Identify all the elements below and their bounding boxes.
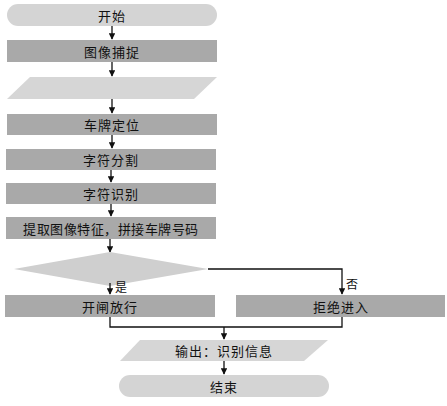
decision-diamond xyxy=(14,252,208,286)
start-label: 开始 xyxy=(7,4,217,26)
extract-label: 提取图像特征，拼接车牌号码 xyxy=(6,217,216,239)
recognize-label: 字符识别 xyxy=(6,183,216,204)
output-label: 输出：识别信息 xyxy=(120,340,328,361)
capture-label: 图像捕捉 xyxy=(7,40,217,62)
end-label: 结束 xyxy=(119,375,329,397)
segment-label: 字符分割 xyxy=(6,149,216,170)
no-label: 否 xyxy=(346,275,358,292)
locate-label: 车牌定位 xyxy=(7,114,217,135)
yes-label: 是 xyxy=(115,278,127,295)
open-label: 开闸放行 xyxy=(5,295,215,317)
reject-label: 拒绝进入 xyxy=(236,295,445,317)
input-parallelogram xyxy=(7,77,217,99)
